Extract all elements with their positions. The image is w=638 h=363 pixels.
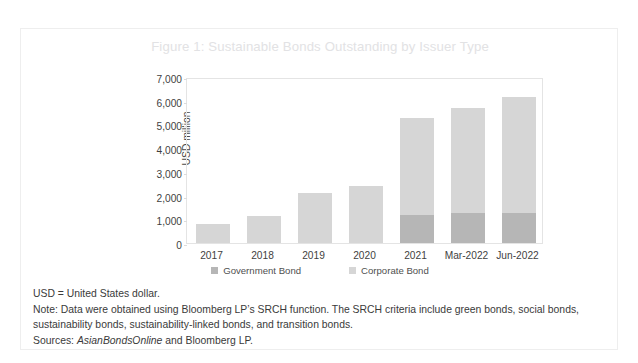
footnote-sources-rest: and Bloomberg LP.	[162, 335, 253, 346]
plot-area: 01,0002,0003,0004,0005,0006,0007,000	[186, 78, 543, 244]
y-axis-tick-label: 1,000	[138, 216, 182, 227]
figure-title: Figure 1: Sustainable Bonds Outstanding …	[21, 39, 619, 54]
bar-segment-corporate-bond[interactable]	[400, 118, 434, 215]
y-axis-tick-mark	[184, 198, 187, 199]
y-axis-tick-mark	[184, 174, 187, 175]
y-axis-tick-mark	[184, 126, 187, 127]
y-axis-tick-label: 5,000	[138, 121, 182, 132]
chart-plot-wrapper: USD million 01,0002,0003,0004,0005,0006,…	[166, 78, 546, 293]
bar-column[interactable]	[196, 79, 230, 243]
y-axis-tick-mark	[184, 103, 187, 104]
bar-column[interactable]	[298, 79, 332, 243]
bar-segment-corporate-bond[interactable]	[196, 224, 230, 243]
bar-segment-government-bond[interactable]	[502, 213, 536, 243]
figure-container: Figure 1: Sustainable Bonds Outstanding …	[20, 28, 618, 350]
footnote-sources: Sources: AsianBondsOnline and Bloomberg …	[33, 334, 611, 349]
legend-swatch-icon	[211, 267, 218, 274]
y-axis-tick-label: 0	[138, 240, 182, 251]
bar-column[interactable]	[349, 79, 383, 243]
y-axis-tick-mark	[184, 245, 187, 246]
bar-column[interactable]	[502, 79, 536, 243]
y-axis-tick-label: 7,000	[138, 74, 182, 85]
legend-label: Corporate Bond	[361, 265, 429, 276]
bar-segment-corporate-bond[interactable]	[502, 97, 536, 213]
bar-segment-government-bond[interactable]	[451, 213, 485, 243]
legend-item[interactable]: Corporate Bond	[349, 265, 429, 276]
footnote-abbreviation: USD = United States dollar.	[33, 287, 611, 302]
bar-segment-corporate-bond[interactable]	[298, 193, 332, 243]
y-axis-tick-label: 6,000	[138, 97, 182, 108]
footnote-note-text: Data were obtained using Bloomberg LP’s …	[33, 304, 579, 330]
x-axis-tick-label: Jun-2022	[486, 250, 550, 261]
figure-footnotes: USD = United States dollar. Note: Data w…	[33, 287, 611, 351]
y-axis-tick-label: 4,000	[138, 145, 182, 156]
bar-column[interactable]	[400, 79, 434, 243]
bar-column[interactable]	[247, 79, 281, 243]
bar-segment-corporate-bond[interactable]	[247, 216, 281, 243]
y-axis-tick-mark	[184, 150, 187, 151]
bar-segment-corporate-bond[interactable]	[451, 108, 485, 214]
footnote-sources-italic: AsianBondsOnline	[77, 335, 163, 346]
bar-column[interactable]	[451, 79, 485, 243]
y-axis-tick-label: 2,000	[138, 192, 182, 203]
footnote-note: Note: Data were obtained using Bloomberg…	[33, 303, 611, 333]
footnote-sources-label: Sources:	[33, 335, 74, 346]
y-axis-tick-label: 3,000	[138, 168, 182, 179]
legend-label: Government Bond	[223, 265, 301, 276]
bar-segment-government-bond[interactable]	[400, 215, 434, 243]
footnote-note-label: Note:	[33, 304, 58, 315]
y-axis-tick-mark	[184, 221, 187, 222]
chart-legend: Government BondCorporate Bond	[21, 265, 619, 276]
y-axis-tick-mark	[184, 79, 187, 80]
bar-segment-corporate-bond[interactable]	[349, 186, 383, 243]
legend-item[interactable]: Government Bond	[211, 265, 301, 276]
legend-swatch-icon	[349, 267, 356, 274]
